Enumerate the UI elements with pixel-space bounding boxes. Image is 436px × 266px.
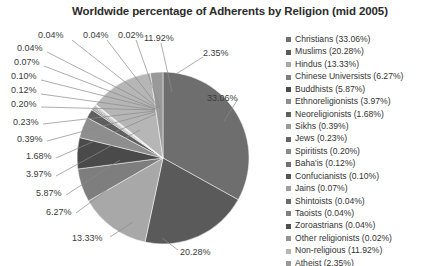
pie-value-label: 13.33% — [72, 234, 103, 243]
pie-chart-figure: Worldwide percentage of Adherents by Rel… — [0, 0, 436, 266]
legend-item-label: Muslims (20.28%) — [295, 47, 364, 56]
callout-leader-line — [176, 57, 203, 74]
legend-swatch-icon — [286, 199, 291, 204]
pie-value-label: 3.97% — [26, 170, 52, 179]
legend-swatch-icon — [286, 37, 291, 42]
legend-swatch-icon — [286, 87, 291, 92]
legend-swatch-icon — [286, 75, 291, 80]
legend-item[interactable]: Chinese Universists (6.27%) — [286, 70, 436, 82]
legend-item-label: Neoreligionists (1.68%) — [295, 110, 384, 119]
legend-item[interactable]: Non-religious (11.92%) — [286, 244, 436, 256]
legend-item[interactable]: Hindus (13.33%) — [286, 58, 436, 70]
legend-item-label: Buddhists (5.87%) — [295, 85, 365, 94]
legend-swatch-icon — [286, 174, 291, 179]
legend-item[interactable]: Spiritists (0.20%) — [286, 145, 436, 157]
legend-item-label: Confucianists (0.10%) — [295, 172, 379, 181]
legend-item[interactable]: Taoists (0.04%) — [286, 207, 436, 219]
legend-item-label: Non-religious (11.92%) — [295, 246, 382, 255]
pie-value-label: 0.04% — [83, 31, 109, 40]
pie-value-label: 0.04% — [38, 31, 64, 40]
legend-swatch-icon — [286, 137, 291, 142]
legend-item[interactable]: Other religionists (0.02%) — [286, 232, 436, 244]
pie-value-label: 1.68% — [26, 152, 52, 161]
legend-item-label: Atheist (2.35%) — [295, 259, 354, 266]
legend-item[interactable]: Christians (33.06%) — [286, 33, 436, 45]
pie-value-label: 5.87% — [36, 189, 62, 198]
legend-swatch-icon — [286, 261, 291, 266]
legend-item-label: Chinese Universists (6.27%) — [295, 72, 403, 81]
legend-swatch-icon — [286, 224, 291, 229]
pie-value-label: 2.35% — [203, 49, 229, 58]
legend-item[interactable]: Atheist (2.35%) — [286, 257, 436, 266]
legend-item[interactable]: Confucianists (0.10%) — [286, 170, 436, 182]
legend-item[interactable]: Ethnoreligionists (3.97%) — [286, 95, 436, 107]
legend-swatch-icon — [286, 211, 291, 216]
pie-value-label: 11.92% — [144, 34, 174, 43]
legend-swatch-icon — [286, 249, 291, 254]
legend-item-label: Jews (0.23%) — [295, 134, 347, 143]
legend-item[interactable]: Baha'is (0.12%) — [286, 157, 436, 169]
legend-swatch-icon — [286, 162, 291, 167]
legend-item[interactable]: Muslims (20.28%) — [286, 45, 436, 57]
legend-item[interactable]: Buddhists (5.87%) — [286, 83, 436, 95]
legend-item[interactable]: Neoreligionists (1.68%) — [286, 108, 436, 120]
legend-swatch-icon — [286, 99, 291, 104]
legend-item-label: Zoroastrians (0.04%) — [295, 221, 375, 230]
pie-value-label: 0.02% — [118, 31, 144, 40]
legend-swatch-icon — [286, 62, 291, 67]
pie-value-label: 0.10% — [11, 72, 37, 81]
chart-legend: Christians (33.06%)Muslims (20.28%)Hindu… — [286, 33, 436, 266]
pie-value-label: 0.12% — [11, 86, 37, 95]
legend-item-label: Ethnoreligionists (3.97%) — [295, 97, 391, 106]
legend-swatch-icon — [286, 50, 291, 55]
legend-item[interactable]: Jains (0.07%) — [286, 182, 436, 194]
pie-value-label: 0.07% — [14, 58, 40, 67]
legend-item-label: Shintoists (0.04%) — [295, 197, 365, 206]
legend-swatch-icon — [286, 149, 291, 154]
legend-item-label: Christians (33.06%) — [295, 35, 370, 44]
legend-item-label: Taoists (0.04%) — [295, 209, 354, 218]
legend-item-label: Other religionists (0.02%) — [295, 234, 392, 243]
legend-item-label: Baha'is (0.12%) — [295, 159, 355, 168]
pie-value-label: 20.28% — [180, 248, 211, 257]
pie-value-label: 0.23% — [13, 118, 39, 127]
pie-value-label: 6.27% — [46, 208, 72, 217]
legend-swatch-icon — [286, 186, 291, 191]
pie-value-label: 0.20% — [11, 100, 37, 109]
legend-item[interactable]: Shintoists (0.04%) — [286, 195, 436, 207]
legend-item-label: Spiritists (0.20%) — [295, 147, 360, 156]
legend-swatch-icon — [286, 236, 291, 241]
legend-item-label: Jains (0.07%) — [295, 184, 348, 193]
legend-swatch-icon — [286, 124, 291, 129]
pie-value-label: 33.06% — [207, 94, 238, 103]
legend-item-label: Sikhs (0.39%) — [295, 122, 349, 131]
pie-value-label: 0.39% — [17, 135, 43, 144]
legend-item-label: Hindus (13.33%) — [295, 60, 359, 69]
legend-swatch-icon — [286, 112, 291, 117]
legend-item[interactable]: Jews (0.23%) — [286, 133, 436, 145]
legend-item[interactable]: Zoroastrians (0.04%) — [286, 220, 436, 232]
legend-item[interactable]: Sikhs (0.39%) — [286, 120, 436, 132]
pie-value-label: 0.04% — [17, 44, 43, 53]
